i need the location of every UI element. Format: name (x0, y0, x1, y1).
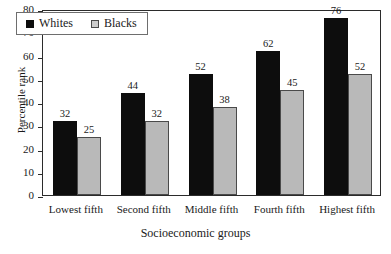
x-axis-tick-label: Lowest fifth (49, 203, 103, 215)
bar-group: 5238 (189, 11, 237, 195)
x-axis-tick-label: Highest fifth (319, 203, 375, 215)
y-axis-tick-label: 10 (23, 166, 34, 178)
bar-blacks-lowest-fifth: 25 (77, 137, 101, 195)
bar-value-label: 32 (151, 108, 162, 119)
gray-square-icon (91, 20, 99, 28)
legend-entry: Blacks (91, 16, 137, 31)
chart-legend: WhitesBlacks (16, 12, 148, 35)
bar-value-label: 62 (263, 38, 274, 49)
black-square-icon (26, 20, 34, 28)
bar-blacks-highest-fifth: 52 (348, 74, 372, 195)
legend-entry: Whites (26, 16, 73, 31)
y-axis-tick-label: 60 (23, 50, 34, 62)
bar-whites-lowest-fifth: 32 (53, 121, 77, 195)
bars-layer: 32254432523862457652 (43, 11, 380, 195)
bar-whites-middle-fifth: 52 (189, 74, 213, 195)
y-axis-tick-label: 20 (23, 143, 34, 155)
x-axis-tick-label: Fourth fifth (254, 203, 305, 215)
bar-value-label: 44 (127, 80, 138, 91)
y-axis-tick-label: 50 (23, 73, 34, 85)
bar-value-label: 32 (60, 108, 71, 119)
bar-group: 4432 (121, 11, 169, 195)
bar-whites-second-fifth: 44 (121, 93, 145, 195)
bar-value-label: 52 (195, 61, 206, 72)
bar-whites-highest-fifth: 76 (324, 18, 348, 195)
bar-value-label: 76 (331, 5, 342, 16)
x-axis-tick-label: Second fifth (117, 203, 171, 215)
bar-blacks-middle-fifth: 38 (213, 107, 237, 195)
bar-whites-fourth-fifth: 62 (256, 51, 280, 195)
bar-chart: Percentile rank 01020304050607080 322544… (0, 0, 391, 254)
y-axis-tick-label: 40 (23, 96, 34, 108)
x-axis-tick-label: Middle fifth (185, 203, 238, 215)
bar-value-label: 38 (219, 94, 230, 105)
legend-label: Blacks (104, 16, 137, 31)
x-axis-title: Socioeconomic groups (0, 226, 391, 241)
bar-value-label: 45 (287, 77, 298, 88)
bar-blacks-second-fifth: 32 (145, 121, 169, 195)
legend-label: Whites (39, 16, 73, 31)
bar-value-label: 52 (355, 61, 366, 72)
plot-area: 01020304050607080 32254432523862457652 (43, 11, 380, 195)
bar-value-label: 25 (84, 124, 95, 135)
y-axis-tick-label: 30 (23, 119, 34, 131)
bar-blacks-fourth-fifth: 45 (280, 90, 304, 195)
y-axis-tick-mark (38, 197, 43, 198)
plot-frame: 01020304050607080 32254432523862457652 (42, 10, 381, 196)
bar-group: 6245 (256, 11, 304, 195)
bar-group: 3225 (53, 11, 101, 195)
y-axis-tick-label: 0 (29, 189, 35, 201)
bar-group: 7652 (324, 11, 372, 195)
